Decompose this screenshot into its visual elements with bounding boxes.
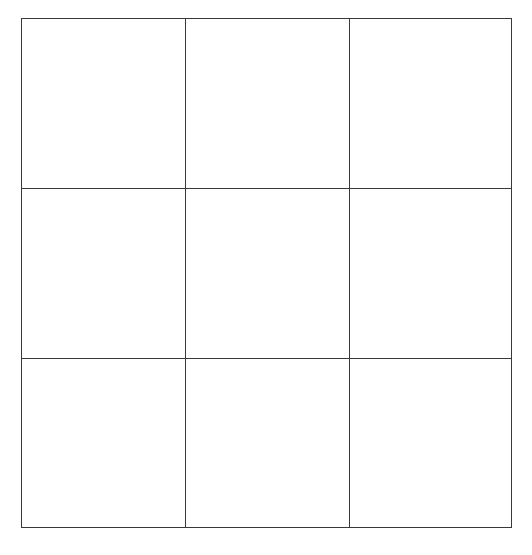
board-cell-r3-c2[interactable] [186,359,350,527]
board-cell-r2-c1[interactable] [22,189,186,359]
board-cell-r2-c3[interactable] [350,189,511,359]
board-cell-r1-c3[interactable] [350,19,511,189]
board-cell-r3-c3[interactable] [350,359,511,527]
board-cell-r2-c2[interactable] [186,189,350,359]
board-cell-r3-c1[interactable] [22,359,186,527]
board-cell-r1-c2[interactable] [186,19,350,189]
game-board [21,18,512,528]
board-cell-r1-c1[interactable] [22,19,186,189]
